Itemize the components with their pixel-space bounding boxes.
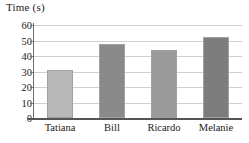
- y-tick-label: 10: [6, 97, 32, 108]
- bar-chart-figure: Time (s) 0102030405060 TatianaBillRicard…: [0, 0, 249, 143]
- x-axis-line: [28, 118, 242, 120]
- x-axis-labels: TatianaBillRicardoMelanie: [0, 122, 249, 140]
- x-tick-label-melanie: Melanie: [199, 122, 233, 133]
- x-tick-label-bill: Bill: [104, 122, 120, 133]
- y-axis-line: [33, 23, 34, 120]
- bar-bill: [99, 44, 125, 118]
- y-tick-label: 60: [6, 20, 32, 31]
- gridline: [34, 25, 242, 26]
- bar-melanie: [203, 37, 229, 118]
- x-tick-label-ricardo: Ricardo: [147, 122, 180, 133]
- y-tick-label: 30: [6, 66, 32, 77]
- x-tick-label-tatiana: Tatiana: [45, 122, 76, 133]
- plot-area: [34, 25, 242, 118]
- bar-tatiana: [47, 70, 73, 118]
- bar-ricardo: [151, 50, 177, 118]
- y-tick-label: 40: [6, 51, 32, 62]
- y-tick-label: 50: [6, 35, 32, 46]
- y-tick-label: 20: [6, 82, 32, 93]
